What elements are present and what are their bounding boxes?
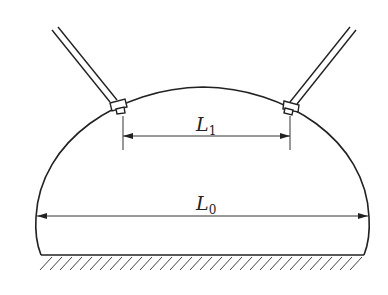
left-rod-foot-clamp (110, 99, 127, 114)
ground-hatch-lines (40, 257, 362, 270)
L0-label: L0 (195, 192, 216, 217)
left-inclined-rod (52, 27, 127, 114)
L1-dimension: L1 (123, 113, 290, 150)
L1-label: L1 (195, 113, 216, 138)
hatched-ground (40, 255, 364, 270)
L0-dimension: L0 (37, 192, 368, 217)
diagram-canvas: L1 L0 (0, 0, 388, 295)
right-inclined-rod (283, 27, 356, 115)
right-rod-foot-clamp (283, 101, 299, 115)
